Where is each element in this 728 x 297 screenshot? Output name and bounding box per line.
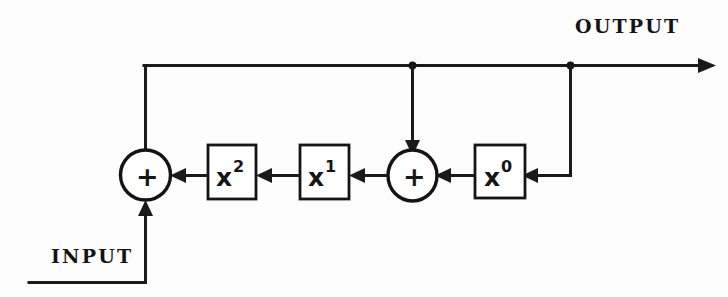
- wire-x0-to-right-adder: [435, 168, 474, 183]
- wire-input-to-left-adder: [29, 200, 153, 283]
- wire-bus-to-right-adder: [405, 67, 420, 156]
- adder-left-plus: +: [136, 161, 159, 192]
- diagram-svg: x 0 + x 1 x 2: [0, 0, 728, 297]
- block-x2-exponent: 2: [233, 157, 244, 176]
- wire-right-adder-to-x1: [349, 168, 387, 183]
- wire-output-bus: [144, 58, 716, 73]
- wire-x2-to-left-adder: [170, 168, 207, 183]
- x2-input-arrow-icon: [256, 168, 272, 183]
- x1-input-arrow-icon: [349, 168, 365, 183]
- input-label: INPUT: [51, 245, 133, 267]
- block-x1-exponent: 1: [325, 157, 336, 176]
- left-adder-side-arrow-icon: [170, 168, 186, 183]
- wire-bus-to-x0: [522, 67, 571, 183]
- block-diagram-canvas: x 0 + x 1 x 2: [0, 0, 728, 297]
- output-label: OUTPUT: [575, 15, 680, 37]
- block-x1-base: x: [308, 163, 324, 192]
- wire-x1-to-x2: [256, 168, 299, 183]
- adder-right-plus: +: [403, 161, 426, 192]
- block-x0-exponent: 0: [501, 157, 512, 176]
- output-arrow-icon: [698, 58, 716, 73]
- block-x2-base: x: [216, 163, 232, 192]
- block-x0-base: x: [484, 163, 500, 192]
- left-adder-input-arrow-icon: [138, 200, 153, 216]
